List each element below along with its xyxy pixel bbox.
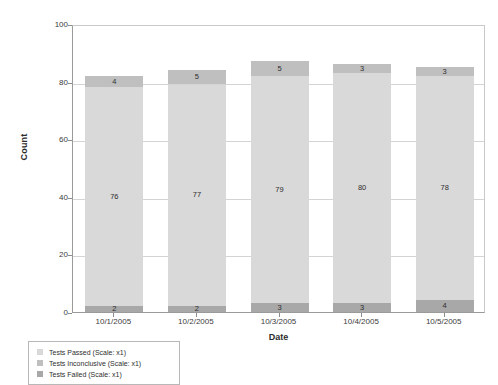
bar-stack[interactable]: 2775	[168, 24, 226, 312]
bar-segment[interactable]: 3	[333, 64, 391, 73]
y-tick-label: 0	[34, 309, 68, 317]
x-tick-label: 10/3/2005	[239, 318, 319, 326]
bar-segment-value: 76	[85, 193, 143, 201]
legend-label: Tests Inconclusive (Scale: x1)	[49, 360, 141, 367]
bar-segment-value: 3	[416, 68, 474, 76]
x-tick-label: 10/4/2005	[321, 318, 401, 326]
legend-item[interactable]: Tests Failed (Scale: x1)	[35, 369, 173, 379]
bar-segment[interactable]: 4	[416, 300, 474, 312]
legend-item[interactable]: Tests Passed (Scale: x1)	[35, 347, 173, 357]
bar-segment[interactable]: 77	[168, 85, 226, 307]
y-tick-label: 100	[34, 21, 68, 29]
bar-segment[interactable]: 76	[85, 87, 143, 306]
bar-segment-value: 77	[168, 192, 226, 200]
x-tick-label: 10/2/2005	[156, 318, 236, 326]
bar-segment[interactable]: 78	[416, 76, 474, 301]
bar-segment-value: 2	[85, 305, 143, 313]
bar-segment-value: 5	[251, 65, 309, 73]
x-tick-label: 10/5/2005	[404, 318, 484, 326]
bar-segment[interactable]: 3	[333, 303, 391, 312]
bar-segment-value: 2	[168, 305, 226, 313]
bar-segment[interactable]: 5	[251, 61, 309, 75]
legend-label: Tests Passed (Scale: x1)	[49, 349, 126, 356]
chart-legend: Tests Passed (Scale: x1)Tests Inconclusi…	[28, 341, 180, 385]
x-tick-label: 10/1/2005	[73, 318, 153, 326]
bar-stack[interactable]: 4783	[416, 24, 474, 312]
y-axis: 020406080100	[28, 25, 68, 313]
stacked-bar-chart: 020406080100 Count 27642775379538034783 …	[0, 0, 498, 385]
legend-swatch-icon	[37, 360, 43, 366]
bar-segment-value: 3	[251, 304, 309, 312]
legend-item[interactable]: Tests Inconclusive (Scale: x1)	[35, 358, 173, 368]
bar-stack[interactable]: 2764	[85, 24, 143, 312]
bar-segment-value: 4	[85, 78, 143, 86]
bar-segment[interactable]: 3	[251, 303, 309, 312]
bar-segment[interactable]: 5	[168, 70, 226, 84]
bar-segment[interactable]: 2	[85, 306, 143, 312]
bar-segment-value: 4	[416, 302, 474, 310]
bar-segment[interactable]: 80	[333, 73, 391, 303]
legend-swatch-icon	[37, 349, 43, 355]
bar-segment-value: 3	[333, 304, 391, 312]
bar-segment[interactable]: 2	[168, 306, 226, 312]
bar-segment[interactable]: 4	[85, 76, 143, 88]
y-tick-label: 80	[34, 79, 68, 87]
bar-segment-value: 3	[333, 65, 391, 73]
bar-segment-value: 79	[251, 186, 309, 194]
bar-segment-value: 78	[416, 184, 474, 192]
bar-stack[interactable]: 3795	[251, 24, 309, 312]
bar-segment[interactable]: 79	[251, 76, 309, 304]
y-tick-label: 20	[34, 251, 68, 259]
bar-segment-value: 80	[333, 184, 391, 192]
y-tick-label: 40	[34, 194, 68, 202]
legend-label: Tests Failed (Scale: x1)	[49, 371, 122, 378]
bar-segment[interactable]: 3	[416, 67, 474, 76]
bar-segment-value: 5	[168, 74, 226, 82]
bar-stack[interactable]: 3803	[333, 24, 391, 312]
legend-swatch-icon	[37, 371, 43, 377]
plot-area: 27642775379538034783	[72, 25, 485, 313]
y-tick-label: 60	[34, 136, 68, 144]
y-axis-title: Count	[19, 117, 29, 177]
